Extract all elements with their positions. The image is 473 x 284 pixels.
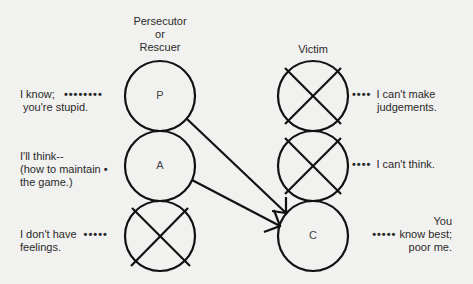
cross-out-icon: [285, 138, 341, 194]
annotation-you-know-best: You •••••know best; poor me.: [352, 215, 452, 254]
annotation-text: I'll think--: [20, 150, 109, 163]
annotation-text: You: [352, 215, 452, 228]
circle-label-a: A: [150, 159, 170, 172]
annotation-text: judgements.: [377, 101, 437, 114]
heading-line: Persecutor: [120, 15, 200, 28]
dotted-connector: •••••: [84, 228, 108, 240]
annotation-text: feelings.: [20, 241, 108, 254]
annotation-text: I can't think.: [376, 158, 434, 170]
arrow-a-to-c: [192, 180, 280, 232]
cross-out-icon: [285, 68, 341, 124]
dotted-connector: ••••: [352, 88, 371, 100]
persecutor-rescuer-heading: Persecutor or Rescuer: [120, 15, 200, 54]
dotted-connector: ••••: [352, 158, 371, 170]
annotation-no-feelings: I don't have ••••• feelings.: [20, 228, 108, 254]
annotation-cant-think: •••• I can't think.: [352, 158, 435, 171]
annotation-i-know: I know; •••••••• you're stupid.: [20, 88, 103, 114]
annotation-text: know best;: [399, 228, 452, 240]
annotation-text: I don't have: [20, 228, 77, 240]
annotation-text: poor me.: [352, 241, 452, 254]
annotation-text: the game.): [20, 176, 109, 189]
cross-out-icon: [131, 208, 190, 266]
arrow-p-to-c: [187, 119, 286, 213]
annotation-cant-judge: •••• I can't make judgements.: [352, 88, 437, 114]
annotation-text: (how to maintain: [20, 163, 101, 175]
circle-label-c: C: [303, 229, 323, 242]
heading-line: or: [120, 28, 200, 41]
annotation-text: I know;: [20, 88, 55, 100]
annotation-ill-think: I'll think-- (how to maintain • the game…: [20, 150, 109, 189]
circle-label-p: P: [150, 89, 170, 102]
annotation-text: I can't make: [376, 88, 435, 100]
victim-heading: Victim: [283, 43, 343, 56]
heading-line: Rescuer: [120, 41, 200, 54]
dotted-connector: •••••: [372, 228, 396, 240]
annotation-text: you're stupid.: [23, 101, 103, 114]
dotted-connector: ••••••••: [64, 88, 103, 100]
dotted-connector: •: [104, 163, 109, 175]
